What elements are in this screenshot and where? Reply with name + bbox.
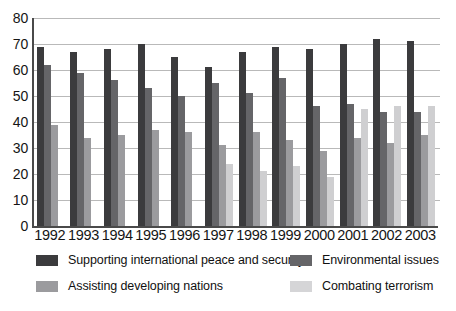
legend-item-environmental-issues[interactable]: Environmental issues [290, 254, 439, 267]
bar [414, 112, 421, 226]
bars-layer [34, 18, 438, 226]
bar [272, 47, 279, 226]
legend-item-combating-terrorism[interactable]: Combating terrorism [290, 280, 433, 293]
legend-label: Combating terrorism [322, 280, 433, 293]
x-axis-tick-label: 1997 [203, 228, 234, 243]
bar [380, 112, 387, 226]
legend-label: Environmental issues [322, 254, 439, 267]
bar [118, 135, 125, 226]
bar [407, 41, 414, 226]
legend-item-supporting-international-peace-and-security[interactable]: Supporting international peace and secur… [36, 254, 304, 267]
y-axis-tick-label: 30 [13, 141, 28, 155]
legend-swatch-icon [36, 281, 58, 292]
bar-group [239, 18, 273, 226]
bar [152, 130, 159, 226]
bar-group [373, 18, 407, 226]
legend-item-assisting-developing-nations[interactable]: Assisting developing nations [36, 280, 223, 293]
bar [394, 106, 401, 226]
x-axis-tick-label: 1999 [270, 228, 301, 243]
y-axis-tick-label: 0 [20, 219, 28, 233]
bar [37, 47, 44, 226]
bar [77, 73, 84, 226]
bar [354, 138, 361, 226]
bar [111, 80, 118, 226]
bar [306, 49, 313, 226]
bar [145, 88, 152, 226]
bar [212, 83, 219, 226]
bar [313, 106, 320, 226]
bar-group [138, 18, 172, 226]
x-axis-tick-label: 2001 [337, 228, 368, 243]
legend-label: Assisting developing nations [68, 280, 223, 293]
y-axis-tick-label: 10 [13, 193, 28, 207]
x-axis-tick-label: 1992 [34, 228, 65, 243]
chart-legend: Supporting international peace and secur… [0, 252, 456, 304]
y-axis-tick-label: 60 [13, 63, 28, 77]
bar [428, 106, 435, 226]
bar-group [272, 18, 306, 226]
bar [320, 151, 327, 226]
x-axis-tick-label: 1998 [236, 228, 267, 243]
legend-swatch-icon [36, 255, 58, 266]
bar-group [340, 18, 374, 226]
x-axis-tick-label: 1996 [169, 228, 200, 243]
bar [421, 135, 428, 226]
bar [260, 171, 267, 226]
bar [293, 166, 300, 226]
x-axis-tick-label: 2000 [304, 228, 335, 243]
bar-group [407, 18, 441, 226]
bar-chart: 80706050403020100 1992199319941995199619… [0, 0, 456, 311]
plot-area [32, 18, 438, 228]
x-axis-tick-label: 1994 [102, 228, 133, 243]
bar-group [70, 18, 104, 226]
y-axis-tick-label: 50 [13, 89, 28, 103]
bar [51, 125, 58, 226]
y-axis-tick-label: 20 [13, 167, 28, 181]
x-axis-tick-label: 1995 [135, 228, 166, 243]
bar [44, 65, 51, 226]
bar [347, 104, 354, 226]
bar [286, 140, 293, 226]
bar [138, 44, 145, 226]
x-axis: 1992199319941995199619971998199920002001… [32, 228, 436, 250]
bar [205, 67, 212, 226]
legend-swatch-icon [290, 281, 312, 292]
bar [226, 164, 233, 226]
legend-swatch-icon [290, 255, 312, 266]
x-axis-tick-label: 2002 [371, 228, 402, 243]
plot-wrapper: 80706050403020100 1992199319941995199619… [0, 0, 456, 240]
bar [361, 109, 368, 226]
y-axis-tick-label: 70 [13, 37, 28, 51]
bar-group [171, 18, 205, 226]
x-axis-tick-label: 1993 [68, 228, 99, 243]
bar-group [104, 18, 138, 226]
y-axis: 80706050403020100 [0, 0, 30, 240]
y-axis-tick-label: 40 [13, 115, 28, 129]
bar [171, 57, 178, 226]
bar [327, 177, 334, 226]
bar [104, 49, 111, 226]
bar [373, 39, 380, 226]
bar [340, 44, 347, 226]
bar [239, 52, 246, 226]
bar [253, 132, 260, 226]
x-axis-tick-label: 2003 [405, 228, 436, 243]
bar [387, 143, 394, 226]
y-axis-tick-label: 80 [13, 11, 28, 25]
bar [279, 78, 286, 226]
bar [246, 93, 253, 226]
bar-group [205, 18, 239, 226]
bar [178, 96, 185, 226]
bar [84, 138, 91, 226]
bar [70, 52, 77, 226]
bar [219, 145, 226, 226]
bar-group [37, 18, 71, 226]
bar-group [306, 18, 340, 226]
bar [185, 132, 192, 226]
legend-label: Supporting international peace and secur… [68, 254, 304, 267]
